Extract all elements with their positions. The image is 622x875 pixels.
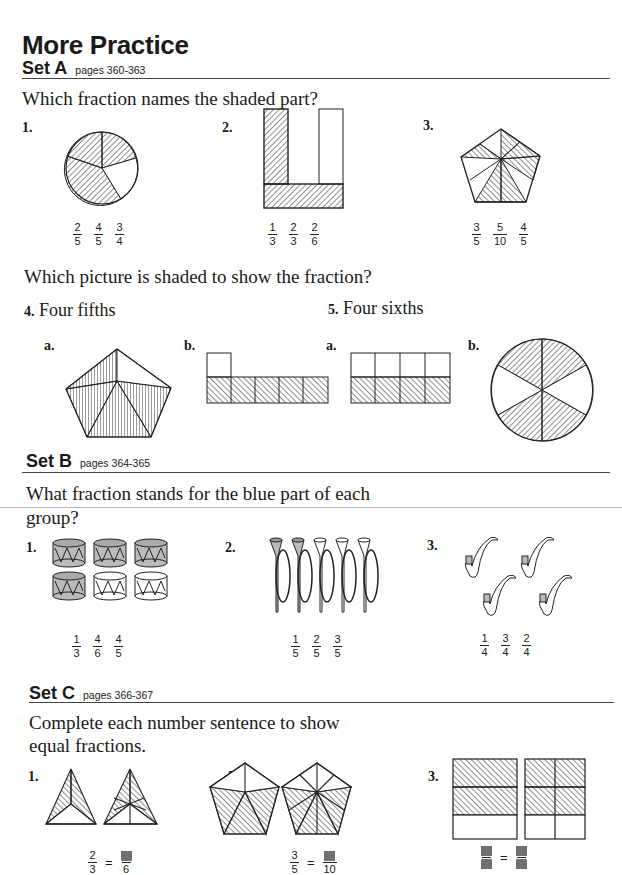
answer-blank[interactable] xyxy=(481,846,492,856)
fraction-choice[interactable]: 15 xyxy=(291,634,300,659)
choices-b3: 14 34 24 xyxy=(480,633,543,658)
choices-a1: 25 45 34 xyxy=(73,222,136,247)
question-set-c-line2: equal fractions. xyxy=(29,735,146,757)
fraction-choice[interactable]: 46 xyxy=(93,634,102,659)
equation-c1: 23 = 6 xyxy=(88,850,132,875)
fraction-choice[interactable]: 13 xyxy=(268,222,277,247)
choices-a2: 13 23 26 xyxy=(268,222,331,247)
question-set-b-line2: group? xyxy=(26,507,79,529)
item-number: 2. xyxy=(225,540,236,556)
answer-blank[interactable] xyxy=(121,851,132,861)
item-number: 1. xyxy=(26,540,37,556)
item-number: 1. xyxy=(22,120,33,136)
set-c-heading: Set Cpages 366-367 xyxy=(29,683,153,704)
circle-fifths-figure xyxy=(64,130,140,206)
choices-a3: 35 510 45 xyxy=(472,222,540,247)
answer-blank[interactable] xyxy=(516,846,527,856)
fraction-choice[interactable]: 25 xyxy=(312,634,321,659)
divider xyxy=(22,78,610,79)
answer-blank[interactable] xyxy=(324,851,335,861)
page-title: More Practice xyxy=(22,30,189,61)
choices-b1: 13 46 45 xyxy=(72,634,135,659)
fraction-choice[interactable]: 45 xyxy=(519,222,528,247)
option-label: a. xyxy=(326,338,337,354)
item-number: 3. xyxy=(428,769,439,785)
question-set-c-line1: Complete each number sentence to show xyxy=(29,712,340,734)
option-label: b. xyxy=(184,338,195,354)
fraction-choice[interactable]: 23 xyxy=(289,222,298,247)
fraction-choice[interactable]: 34 xyxy=(115,222,124,247)
choices-b2: 15 25 35 xyxy=(291,634,354,659)
drums-figure xyxy=(52,538,170,602)
divider xyxy=(22,472,610,473)
item-number: 3. xyxy=(427,538,438,554)
item-number: 2. xyxy=(222,120,233,136)
answer-blank[interactable] xyxy=(516,859,527,869)
pentagons-figure xyxy=(208,762,340,836)
page-fold-line xyxy=(0,507,622,508)
rectangles-figure xyxy=(452,758,616,840)
question-set-a-2: Which picture is shaded to show the frac… xyxy=(24,266,372,288)
saxophones-figure xyxy=(462,536,582,618)
fraction-choice[interactable]: 34 xyxy=(501,633,510,658)
set-a-pages: pages 360-363 xyxy=(75,64,145,76)
bar-option-4b[interactable] xyxy=(206,352,330,404)
fraction-choice[interactable]: 26 xyxy=(310,222,319,247)
answer-blank[interactable] xyxy=(481,859,492,869)
question-set-a-1: Which fraction names the shaded part? xyxy=(22,88,318,110)
divider xyxy=(29,702,614,703)
fraction-choice[interactable]: 45 xyxy=(114,634,123,659)
fraction-choice[interactable]: 35 xyxy=(333,634,342,659)
u-shape-thirds-figure xyxy=(263,108,347,210)
equation-c3: = xyxy=(481,846,527,869)
fraction-choice[interactable]: 45 xyxy=(94,222,103,247)
pentagon-tenths-figure xyxy=(460,128,542,206)
set-a-heading: Set Apages 360-363 xyxy=(22,58,145,79)
item-number: 3. xyxy=(423,118,434,134)
fraction-choice[interactable]: 510 xyxy=(493,222,507,247)
pentagon-option-4a[interactable] xyxy=(64,348,174,440)
fraction-choice[interactable]: 14 xyxy=(480,633,489,658)
fraction-choice[interactable]: 24 xyxy=(522,633,531,658)
set-b-heading: Set Bpages 364-365 xyxy=(26,451,150,472)
triangles-figure xyxy=(44,768,160,826)
item-number: 1. xyxy=(28,769,39,785)
item-4: 4. Four fifths xyxy=(24,300,116,321)
set-a-name: Set A xyxy=(22,58,67,78)
bar-option-5a[interactable] xyxy=(350,352,452,404)
equation-c2: 35 = 10 xyxy=(290,850,337,875)
fraction-choice[interactable]: 13 xyxy=(72,634,81,659)
option-label: b. xyxy=(468,338,479,354)
option-label: a. xyxy=(44,338,55,354)
question-set-b-line1: What fraction stands for the blue part o… xyxy=(26,483,370,505)
circle-option-5b[interactable] xyxy=(490,338,594,442)
fraction-choice[interactable]: 35 xyxy=(472,222,481,247)
item-5: 5. Four sixths xyxy=(328,298,424,319)
fraction-choice[interactable]: 25 xyxy=(73,222,82,247)
horns-figure xyxy=(268,536,380,614)
